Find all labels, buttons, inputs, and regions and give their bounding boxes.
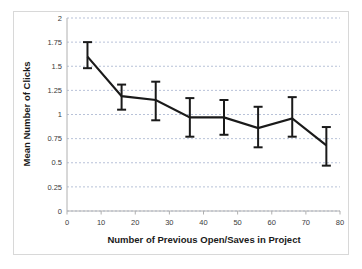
x-tick-label: 50 <box>233 218 241 227</box>
x-tick-label: 80 <box>336 218 344 227</box>
error-bar <box>83 42 92 68</box>
figure-container: 00.250.50.7511.251.51.752 01020304050607… <box>0 0 362 269</box>
data-series-line <box>87 57 326 146</box>
x-tick-label: 20 <box>131 218 139 227</box>
y-tick-label: 1.75 <box>47 38 62 47</box>
y-tick-label: 0.5 <box>52 158 62 167</box>
y-tick-label: 2 <box>58 14 62 23</box>
x-tick-label: 40 <box>199 218 207 227</box>
x-tick-label: 60 <box>268 218 276 227</box>
x-tick-labels: 01020304050607080 <box>65 218 344 227</box>
y-tick-label: 0 <box>58 207 62 216</box>
x-tick-label: 70 <box>302 218 310 227</box>
x-tick-label: 0 <box>65 218 69 227</box>
error-bars <box>83 42 331 166</box>
y-tick-labels: 00.250.50.7511.251.51.752 <box>47 14 62 216</box>
y-tick-label: 0.75 <box>47 134 62 143</box>
x-tick-label: 10 <box>97 218 105 227</box>
gridlines <box>67 18 340 211</box>
x-tick-marks <box>67 211 340 215</box>
error-bar <box>322 127 331 166</box>
y-tick-label: 1.25 <box>47 86 62 95</box>
line-chart: 00.250.50.7511.251.51.752 01020304050607… <box>0 0 362 269</box>
error-bar <box>288 97 297 137</box>
y-tick-label: 0.25 <box>47 183 62 192</box>
x-tick-label: 30 <box>165 218 173 227</box>
y-axis-title: Mean Number of Clicks <box>21 61 32 166</box>
y-tick-label: 1 <box>58 110 62 119</box>
y-tick-label: 1.5 <box>52 62 62 71</box>
x-axis-title: Number of Previous Open/Saves in Project <box>107 234 301 245</box>
series-polyline <box>87 57 326 146</box>
